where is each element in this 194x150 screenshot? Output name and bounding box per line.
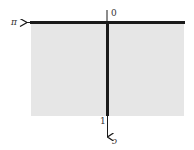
origin-label: 0: [111, 9, 117, 18]
diagram-canvas: [0, 0, 194, 150]
down-axis-label: c: [112, 137, 117, 146]
domain-diagram: π 0 1 c: [0, 0, 194, 150]
left-axis-label: π: [11, 18, 17, 27]
bottom-mark-label: 1: [100, 117, 106, 126]
